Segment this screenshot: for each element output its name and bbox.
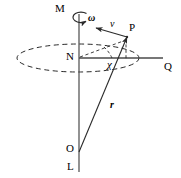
label-point-p: P (129, 22, 135, 33)
diagram-canvas (0, 0, 181, 178)
velocity-vector-v (96, 28, 127, 37)
label-axis-right-q: Q (164, 61, 172, 72)
angle-chi-arc (104, 47, 112, 58)
rotation-diagram-figure: M ω v P N Q χ r O L (0, 0, 181, 178)
label-radius-vector-r: r (110, 100, 114, 110)
point-p-marker (126, 36, 128, 38)
spin-direction-arc (73, 12, 87, 22)
label-axis-top-m: M (55, 3, 65, 14)
label-angle-chi: χ (107, 59, 112, 70)
label-origin-o: O (66, 143, 74, 154)
label-node-n: N (66, 51, 74, 62)
orbit-radius-dashed (80, 40, 126, 57)
label-angular-velocity-omega: ω (88, 13, 95, 23)
label-velocity-v: v (110, 19, 114, 29)
label-axis-bottom-l: L (67, 161, 74, 172)
